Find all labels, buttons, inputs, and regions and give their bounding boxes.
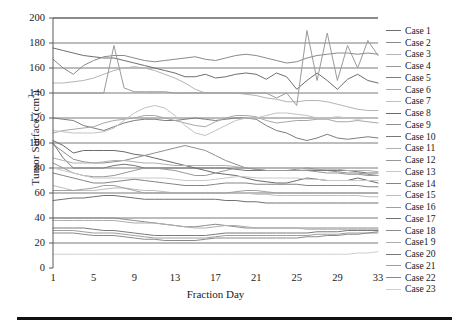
legend-item-12[interactable]: Case 12 [386, 154, 469, 166]
legend-swatch [386, 89, 401, 90]
series-line-13 [53, 168, 378, 181]
series-line-3 [53, 67, 378, 111]
legend-swatch [386, 66, 401, 67]
legend-swatch [386, 42, 401, 43]
legend-label: Case 1 [405, 26, 431, 36]
legend-swatch [386, 30, 401, 31]
legend-label: Case 10 [405, 132, 436, 142]
x-tick-label: 29 [322, 273, 352, 283]
legend-swatch [386, 289, 401, 290]
legend-item-19[interactable]: Case1 9 [386, 237, 469, 249]
legend-swatch [386, 195, 401, 196]
legend-label: Case 14 [405, 179, 436, 189]
legend-item-15[interactable]: Case 15 [386, 190, 469, 202]
legend-swatch [386, 160, 401, 161]
legend-item-14[interactable]: Case 14 [386, 178, 469, 190]
series-line-17 [53, 196, 378, 204]
legend-item-2[interactable]: Case 2 [386, 37, 469, 49]
series-line-15 [53, 186, 378, 197]
series-line-11 [53, 158, 378, 172]
legend-label: Case 12 [405, 155, 436, 165]
y-tick-label: 180 [15, 38, 45, 48]
y-axis-title-main: Tumor Surface (cm [29, 98, 41, 185]
legend-item-9[interactable]: Case 9 [386, 119, 469, 131]
x-tick-label: 1 [38, 273, 68, 283]
legend-label: Case 4 [405, 61, 431, 71]
legend-item-23[interactable]: Case 23 [386, 284, 469, 296]
y-tick-label: 200 [15, 13, 45, 23]
legend-item-17[interactable]: Case 17 [386, 213, 469, 225]
legend-item-22[interactable]: Case 22 [386, 272, 469, 284]
tick-marks [49, 18, 53, 268]
x-tick-label: 13 [160, 273, 190, 283]
legend-label: Case 21 [405, 261, 436, 271]
legend-item-11[interactable]: Case 11 [386, 143, 469, 155]
legend-swatch [386, 113, 401, 114]
legend-label: Case 13 [405, 167, 436, 177]
series-line-2 [53, 53, 378, 74]
legend-label: Case 9 [405, 120, 431, 130]
legend-item-18[interactable]: Case 18 [386, 225, 469, 237]
legend-label: Case 3 [405, 49, 431, 59]
y-tick-label: 20 [15, 238, 45, 248]
legend-item-20[interactable]: Case 20 [386, 248, 469, 260]
legend-item-16[interactable]: Case 16 [386, 201, 469, 213]
legend: Case 1Case 2Case 3Case 4Case 5Case 6Case… [386, 25, 469, 295]
legend-swatch [386, 148, 401, 149]
y-axis-title-superscript: 2 [27, 94, 36, 98]
series-line-10 [53, 143, 378, 173]
legend-swatch [386, 254, 401, 255]
legend-label: Case 17 [405, 214, 436, 224]
legend-swatch [386, 136, 401, 137]
line-chart: 020406080100120140160180200 159131721252… [0, 0, 469, 300]
legend-item-7[interactable]: Case 7 [386, 96, 469, 108]
y-axis-title: Tumor Surface (cm2) [27, 58, 41, 218]
legend-label: Case 6 [405, 85, 431, 95]
legend-swatch [386, 124, 401, 125]
series-lines [53, 31, 378, 255]
x-tick-label: 17 [201, 273, 231, 283]
legend-label: Case1 9 [405, 237, 436, 247]
legend-swatch [386, 265, 401, 266]
legend-label: Case 23 [405, 284, 436, 294]
legend-swatch [386, 242, 401, 243]
legend-item-3[interactable]: Case 3 [386, 49, 469, 61]
series-line-14 [53, 173, 378, 187]
legend-item-1[interactable]: Case 1 [386, 25, 469, 37]
x-tick-label: 5 [79, 273, 109, 283]
legend-label: Case 16 [405, 202, 436, 212]
legend-swatch [386, 77, 401, 78]
legend-label: Case 7 [405, 96, 431, 106]
legend-label: Case 18 [405, 226, 436, 236]
bottom-divider-rule [17, 317, 452, 320]
legend-item-6[interactable]: Case 6 [386, 84, 469, 96]
legend-label: Case 8 [405, 108, 431, 118]
legend-label: Case 22 [405, 273, 436, 283]
legend-swatch [386, 101, 401, 102]
figure: 020406080100120140160180200 159131721252… [0, 0, 469, 329]
legend-swatch [386, 54, 401, 55]
x-tick-label: 9 [119, 273, 149, 283]
legend-label: Case 15 [405, 190, 436, 200]
legend-item-8[interactable]: Case 8 [386, 107, 469, 119]
legend-swatch [386, 183, 401, 184]
legend-label: Case 11 [405, 143, 435, 153]
x-axis-title: Fraction Day [53, 288, 378, 300]
legend-label: Case 2 [405, 38, 431, 48]
legend-item-13[interactable]: Case 13 [386, 166, 469, 178]
legend-item-5[interactable]: Case 5 [386, 72, 469, 84]
legend-item-10[interactable]: Case 10 [386, 131, 469, 143]
legend-swatch [386, 277, 401, 278]
y-tick-label: 0 [15, 263, 45, 273]
legend-label: Case 5 [405, 73, 431, 83]
x-tick-label: 21 [241, 273, 271, 283]
legend-label: Case 20 [405, 249, 436, 259]
legend-item-21[interactable]: Case 21 [386, 260, 469, 272]
y-axis-title-tail: ) [29, 90, 41, 94]
legend-item-4[interactable]: Case 4 [386, 60, 469, 72]
legend-swatch [386, 171, 401, 172]
x-tick-label: 25 [282, 273, 312, 283]
legend-swatch [386, 207, 401, 208]
legend-swatch [386, 218, 401, 219]
legend-swatch [386, 230, 401, 231]
